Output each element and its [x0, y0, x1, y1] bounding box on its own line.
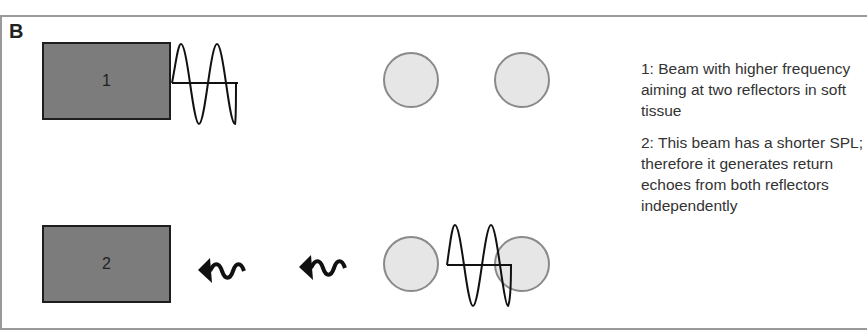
- note-1: 1: Beam with higher frequency aiming at …: [641, 58, 867, 121]
- reflector-circle-icon: [384, 53, 438, 107]
- reflector-circle-icon: [384, 237, 438, 291]
- sine-wave-pulse-icon: [447, 225, 512, 306]
- echo-arrow-icon: [198, 258, 244, 283]
- reflector-circle-icon: [495, 53, 549, 107]
- note-2: 2: This beam has a shorter SPL; therefor…: [641, 132, 867, 216]
- sine-wave-pulse-icon: [172, 44, 238, 124]
- echo-arrow-icon: [299, 255, 345, 280]
- explanation-notes: 1: Beam with higher frequency aiming at …: [641, 58, 867, 227]
